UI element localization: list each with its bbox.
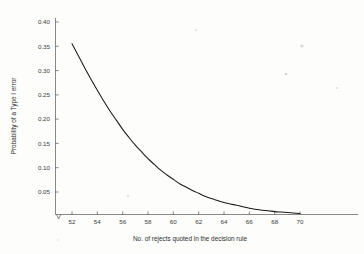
y-tick-label-020: 0.20 (38, 115, 51, 122)
x-tick-label-66: 66 (246, 218, 253, 225)
y-tick-label-030: 0.30 (38, 67, 51, 74)
x-tick-label-64: 64 (221, 218, 228, 225)
x-tick-label-70: 70 (297, 218, 304, 225)
y-tick-label-005: 0.05 (38, 188, 51, 195)
x-tick-label-52: 52 (69, 218, 76, 225)
y-axis-ticks (56, 22, 59, 192)
x-axis-ticks (72, 212, 300, 215)
chart-figure: 0.40 0.35 0.30 0.25 0.20 0.15 0.10 0.05 … (0, 0, 364, 254)
y-tick-label-035: 0.35 (38, 43, 51, 50)
scan-noise (57, 29, 338, 241)
axis-break-notch (57, 215, 61, 220)
x-tick-label-54: 54 (94, 218, 101, 225)
data-series-line (72, 44, 300, 214)
x-tick-label-60: 60 (170, 218, 177, 225)
y-tick-label-010: 0.10 (38, 164, 51, 171)
y-tick-label-040: 0.40 (38, 18, 51, 25)
x-tick-label-62: 62 (195, 218, 202, 225)
chart-plot-area: 0.40 0.35 0.30 0.25 0.20 0.15 0.10 0.05 … (0, 0, 364, 254)
x-tick-label-58: 58 (145, 218, 152, 225)
x-axis-title: No. of rejects quoted in the decision ru… (133, 235, 247, 243)
x-tick-label-56: 56 (119, 218, 126, 225)
y-tick-label-025: 0.25 (38, 91, 51, 98)
y-tick-label-015: 0.15 (38, 140, 51, 147)
y-axis-title: Probability of a Type I error (10, 77, 18, 154)
x-tick-label-68: 68 (271, 218, 278, 225)
